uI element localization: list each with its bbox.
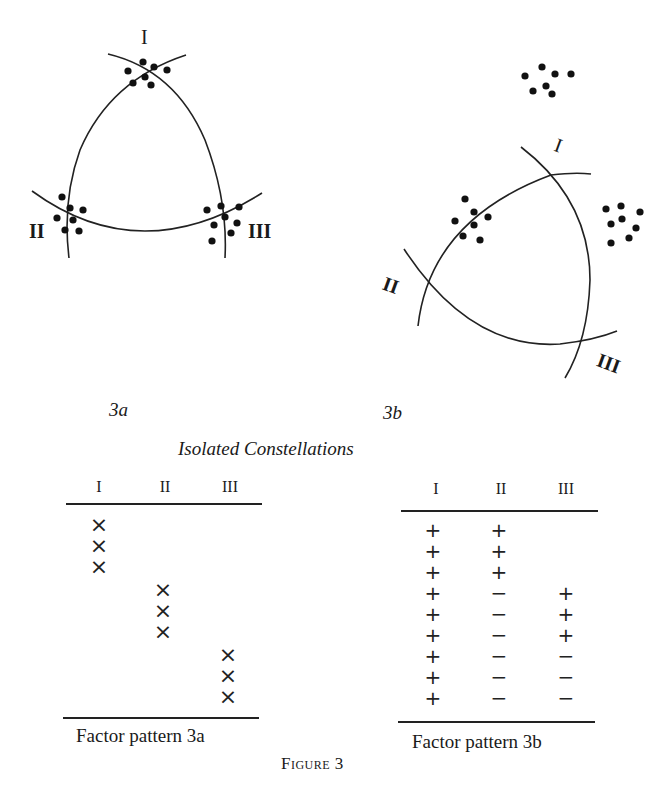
table-b-bottom-rule (398, 721, 595, 723)
table-b-cell: + (418, 688, 448, 708)
table-a-header-II: II (145, 478, 185, 496)
table-b-cell: + (484, 520, 514, 540)
table-b-cell: − (551, 667, 581, 687)
table-b-cell: + (418, 520, 448, 540)
table-b-cell: − (484, 688, 514, 708)
factor-label-3a-III: III (248, 220, 271, 243)
table-b-cell: − (551, 688, 581, 708)
table-b-cell: − (484, 604, 514, 624)
table-a-header-III: III (210, 478, 250, 496)
table-b-cell: + (418, 541, 448, 561)
table-b-cell: + (418, 583, 448, 603)
table-b-cell: + (418, 667, 448, 687)
table-b-cell: − (484, 583, 514, 603)
table-b-cell: + (418, 604, 448, 624)
table-b-cell: − (551, 646, 581, 666)
diagram-3b-points (451, 63, 643, 246)
table-b-cell: + (551, 604, 581, 624)
table-b-cell: + (551, 625, 581, 645)
table-b-cell: + (551, 583, 581, 603)
table-a-top-rule (66, 503, 262, 505)
table-b-cell: + (484, 541, 514, 561)
panel-label-3b: 3b (383, 402, 402, 424)
table-b-cell: + (418, 646, 448, 666)
table-a-cell: × (148, 622, 178, 642)
table-a-caption: Factor pattern 3a (76, 725, 205, 747)
factor-label-3a-I: I (141, 26, 148, 49)
table-b-header-III: III (546, 480, 586, 498)
table-b-cell: + (484, 562, 514, 582)
table-a-cell: × (148, 601, 178, 621)
table-a-cell: × (84, 557, 114, 577)
table-b-cell: + (418, 625, 448, 645)
table-b-top-rule (401, 510, 598, 512)
table-b-caption: Factor pattern 3b (412, 731, 542, 753)
table-a-cell: × (213, 687, 243, 707)
table-a-cell: × (148, 580, 178, 600)
table-a-cell: × (84, 515, 114, 535)
table-a-bottom-rule (63, 717, 259, 719)
table-b-cell: − (484, 667, 514, 687)
section-title: Isolated Constellations (178, 438, 354, 460)
table-b-cell: − (484, 625, 514, 645)
table-a-cell: × (213, 666, 243, 686)
table-b-header-I: I (416, 480, 456, 498)
diagram-3b (404, 147, 617, 378)
table-a-cell: × (213, 645, 243, 665)
table-a-header-I: I (79, 478, 119, 496)
table-b-header-II: II (481, 480, 521, 498)
factor-label-3a-II: II (29, 220, 45, 243)
table-a-cell: × (84, 536, 114, 556)
panel-label-3a: 3a (109, 399, 128, 421)
figure-caption: Figure 3 (281, 754, 344, 774)
table-b-cell: − (484, 646, 514, 666)
table-b-cell: + (418, 562, 448, 582)
constellation-diagrams (0, 0, 667, 400)
